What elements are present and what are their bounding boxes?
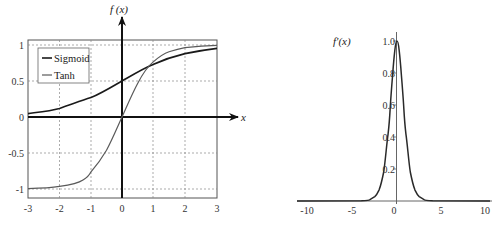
x-tick-label: -5 [348, 205, 356, 216]
y-tick-label: 0.5 [12, 76, 25, 87]
y-tick-label: -1 [16, 184, 24, 195]
x-tick-label: 2 [183, 203, 188, 214]
legend-tanh-label: Tanh [54, 70, 76, 81]
x-tick-label: 5 [439, 205, 444, 216]
legend-sigmoid-label: Sigmoid [54, 53, 90, 64]
x-tick-label: 3 [215, 203, 220, 214]
left-chart: f (x) x 1 0.5 0 -0.5 -1 -3 -2 -1 0 1 2 3… [8, 3, 246, 214]
x-tick-label: -3 [24, 203, 32, 214]
y-tick-label: 0.6 [383, 100, 396, 111]
y-tick-label: 1 [19, 40, 24, 51]
left-y-tick-labels: 1 0.5 0 -0.5 -1 [8, 40, 24, 195]
right-y-tick-labels: 1.0 0.8 0.6 0.4 0.2 [383, 36, 396, 175]
right-y-axis-label: f'(x) [333, 35, 351, 48]
left-x-axis-label: x [240, 111, 246, 123]
y-tick-label: 0.2 [383, 164, 396, 175]
x-tick-label: 0 [120, 203, 125, 214]
y-tick-label: -0.5 [8, 148, 24, 159]
right-x-tick-labels: -10 -5 0 5 10 [300, 205, 490, 216]
x-tick-label: -2 [55, 203, 63, 214]
right-chart: f'(x) 1.0 0.8 0.6 0.4 0.2 -10 -5 0 5 10 [297, 32, 492, 216]
x-tick-label: 1 [151, 203, 156, 214]
y-tick-label: 1.0 [383, 36, 396, 47]
y-tick-label: 0.4 [383, 132, 396, 143]
y-tick-label: 0 [19, 112, 24, 123]
figure: f (x) x 1 0.5 0 -0.5 -1 -3 -2 -1 0 1 2 3… [0, 0, 497, 225]
x-tick-label: -10 [300, 205, 313, 216]
legend: Sigmoid Tanh [38, 48, 90, 83]
derivative-curve [297, 41, 490, 201]
x-tick-label: -1 [87, 203, 95, 214]
y-tick-label: 0.8 [383, 68, 396, 79]
left-x-tick-labels: -3 -2 -1 0 1 2 3 [24, 203, 220, 214]
x-tick-label: 10 [480, 205, 490, 216]
x-tick-label: 0 [392, 205, 397, 216]
left-y-axis-label: f (x) [110, 3, 128, 16]
